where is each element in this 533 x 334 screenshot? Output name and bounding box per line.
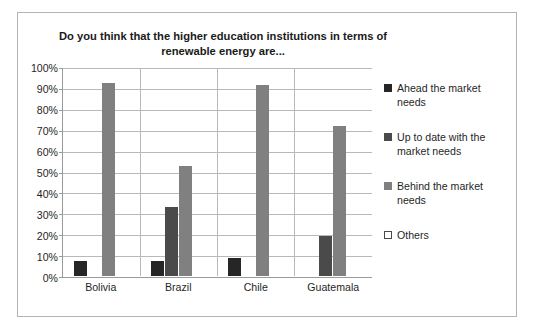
chart-figure: Do you think that the higher education i…: [17, 12, 517, 317]
bars: [218, 68, 295, 276]
legend-item-2[interactable]: Behind the market needs: [384, 179, 509, 207]
legend-item-3[interactable]: Others: [384, 228, 509, 242]
bar: [333, 126, 346, 276]
legend-swatch-icon: [384, 84, 392, 92]
bars: [295, 68, 372, 276]
x-axis-label-bolivia: Bolivia: [62, 281, 140, 293]
x-axis-label-chile: Chile: [217, 281, 295, 293]
bar-group-guatemala: [295, 68, 372, 276]
y-axis-tick: [59, 214, 63, 215]
legend-label: Behind the market needs: [397, 179, 509, 207]
y-axis-tick: [59, 173, 63, 174]
bar: [151, 261, 164, 276]
bar: [179, 166, 192, 276]
bar: [165, 207, 178, 276]
y-axis-tick: [59, 277, 63, 278]
legend-label: Ahead the market needs: [397, 81, 509, 109]
y-axis-tick: [59, 131, 63, 132]
plot-area: [62, 68, 372, 278]
y-axis-tick-label: 70%: [18, 125, 58, 137]
y-axis-tick: [59, 68, 63, 69]
y-axis-tick-label: 60%: [18, 146, 58, 158]
legend-label: Others: [397, 228, 429, 242]
x-axis-labels: BoliviaBrazilChileGuatemala: [62, 281, 372, 293]
bar-group-brazil: [141, 68, 218, 276]
legend-item-0[interactable]: Ahead the market needs: [384, 81, 509, 109]
y-axis-tick: [59, 110, 63, 111]
bar: [74, 261, 87, 276]
y-axis-tick-label: 90%: [18, 83, 58, 95]
y-axis-tick-label: 40%: [18, 188, 58, 200]
y-axis-tick-label: 0%: [18, 272, 58, 284]
y-axis-tick: [59, 193, 63, 194]
bar: [102, 83, 115, 276]
y-axis-tick: [59, 152, 63, 153]
bar: [256, 85, 269, 276]
y-axis-tick-label: 50%: [18, 167, 58, 179]
chart-legend: Ahead the market needsUp to date with th…: [384, 81, 509, 263]
y-axis-tick: [59, 89, 63, 90]
bar-group-bolivia: [64, 68, 141, 276]
plot-wrapper: 100%90%80%70%60%50%40%30%20%10%0%: [62, 68, 372, 278]
bars: [141, 68, 218, 276]
bar-groups: [64, 68, 372, 276]
legend-item-1[interactable]: Up to date with the market needs: [384, 130, 509, 158]
legend-label: Up to date with the market needs: [397, 130, 509, 158]
x-axis-label-guatemala: Guatemala: [295, 281, 373, 293]
bar: [228, 258, 241, 276]
y-axis-tick-label: 100%: [18, 62, 58, 74]
x-axis-label-brazil: Brazil: [140, 281, 218, 293]
y-axis-tick-label: 20%: [18, 230, 58, 242]
legend-swatch-icon: [384, 182, 392, 190]
y-axis-tick-label: 80%: [18, 104, 58, 116]
y-axis-labels: 100%90%80%70%60%50%40%30%20%10%0%: [18, 68, 58, 278]
bars: [64, 68, 141, 276]
chart-title: Do you think that the higher education i…: [58, 29, 388, 59]
y-axis-tick-label: 10%: [18, 251, 58, 263]
bar-group-chile: [218, 68, 295, 276]
y-axis-tick-label: 30%: [18, 209, 58, 221]
bar: [319, 236, 332, 276]
y-axis-tick: [59, 256, 63, 257]
legend-swatch-icon: [384, 133, 392, 141]
y-axis-tick: [59, 235, 63, 236]
legend-swatch-icon: [384, 231, 392, 239]
